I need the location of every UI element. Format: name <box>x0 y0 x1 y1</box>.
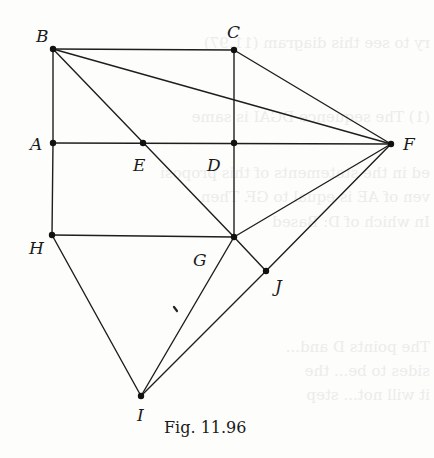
figure-caption: Fig. 11.96 <box>164 418 246 437</box>
edge-ah <box>52 143 53 235</box>
geometry-figure: ABCDEFGHIJ <box>0 0 434 458</box>
edge-hi <box>52 235 141 396</box>
vertex-label-c: C <box>227 22 240 42</box>
vertex-label-i: I <box>136 405 144 425</box>
edge-bf <box>53 49 391 144</box>
figure-page: ry to see this diagram (11.97) (1) The s… <box>0 0 434 458</box>
vertex-label-j: J <box>272 276 283 296</box>
vertex-label-e: E <box>132 155 146 175</box>
vertex-d <box>231 140 237 146</box>
vertex-label-g: G <box>193 250 207 270</box>
vertex-e <box>140 140 146 146</box>
vertex-h <box>49 232 55 238</box>
edge-bc <box>53 49 234 50</box>
edge-gj <box>234 237 266 271</box>
vertex-c <box>231 47 237 53</box>
vertex-a <box>50 140 56 146</box>
edge-af <box>53 143 391 144</box>
vertex-g <box>231 234 237 240</box>
edge-cf <box>234 50 391 144</box>
vertex-f <box>388 141 394 147</box>
stray-mark <box>174 307 177 311</box>
vertex-i <box>138 393 144 399</box>
vertex-label-f: F <box>402 134 416 154</box>
vertex-label-b: B <box>35 26 49 46</box>
vertex-label-a: A <box>28 134 42 154</box>
vertex-label-h: H <box>28 238 45 258</box>
edge-hg <box>52 235 234 237</box>
vertex-j <box>263 268 269 274</box>
edges <box>52 49 391 396</box>
vertex-b <box>50 46 56 52</box>
vertex-label-d: D <box>206 155 221 175</box>
vertex-labels: ABCDEFGHIJ <box>28 22 416 425</box>
